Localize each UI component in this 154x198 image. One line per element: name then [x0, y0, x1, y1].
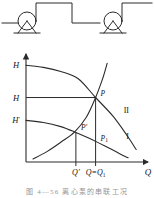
single-pump-head-curve	[26, 120, 128, 157]
curve-label-II: II	[124, 106, 130, 115]
curves-group	[26, 63, 136, 159]
schematic-svg	[0, 0, 154, 46]
connecting-pipe-series	[36, 3, 100, 23]
figure-root: PP′P1 HHH′Q′Q=Q1Q III 图 4—56 离心泵的串联工况	[0, 0, 154, 198]
x-axis-title: Q	[145, 167, 152, 177]
y-tick-label-H-prime: H′	[11, 115, 20, 126]
figure-caption: 图 4—56 离心泵的串联工况	[0, 186, 154, 198]
x-tick-label-Q-equals-Q1: Q=Q1	[86, 168, 106, 178]
curve-label-I: I	[126, 132, 129, 141]
point-label-P1: P1	[100, 134, 109, 143]
axis-ticks-group	[76, 162, 96, 166]
series-combined-head-curve	[26, 65, 136, 149]
point-label-P-prime: P′	[80, 123, 88, 132]
y-tick-label-H-top: H	[12, 60, 20, 70]
chart-svg: PP′P1 HHH′Q′Q=Q1Q III	[0, 46, 154, 184]
curve-labels-group: III	[124, 106, 130, 141]
axis-labels-group: HHH′Q′Q=Q1Q	[11, 60, 152, 177]
pump-piping-schematic	[0, 0, 154, 46]
data-points-group: PP′P1	[80, 89, 108, 144]
point-label-P: P	[100, 89, 106, 98]
hq-characteristic-chart: PP′P1 HHH′Q′Q=Q1Q III	[0, 46, 154, 184]
discharge-pipe-right	[122, 3, 152, 21]
x-tick-label-Q-prime: Q′	[72, 168, 80, 177]
y-tick-label-H-mid: H	[12, 93, 20, 103]
